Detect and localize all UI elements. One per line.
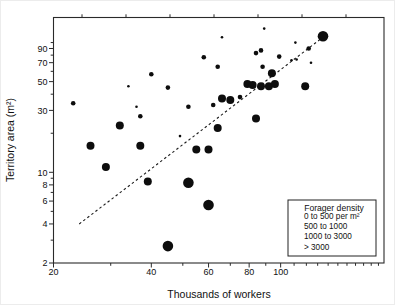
data-point (254, 51, 259, 56)
data-point (277, 54, 282, 59)
data-point (136, 142, 144, 150)
data-point (214, 124, 222, 132)
data-point (215, 65, 220, 70)
y-tick-label: 4 (42, 219, 47, 229)
data-point (71, 101, 76, 106)
data-point (218, 95, 226, 103)
data-point (271, 80, 279, 88)
legend-item-label: 500 to 1000 (304, 222, 348, 231)
legend-item-label: > 3000 (304, 243, 330, 252)
y-tick-label: 30 (37, 106, 47, 116)
x-tick-label: 100 (273, 267, 288, 277)
legend-item-label: 1000 to 3000 (304, 232, 352, 241)
data-point (252, 115, 260, 123)
y-axis-title: Territory area (m²) (4, 98, 16, 182)
data-point (186, 105, 191, 110)
chart-canvas: 2040608010024681030507090 Thousands of w… (1, 1, 395, 305)
data-point (310, 61, 313, 64)
y-tick-label: 50 (37, 77, 47, 87)
data-point (138, 114, 143, 119)
data-point (257, 82, 265, 90)
legend-title: Forager density (304, 203, 364, 213)
data-point (301, 82, 309, 90)
y-tick-label: 8 (42, 180, 47, 190)
data-point (202, 55, 207, 60)
data-point (127, 85, 130, 88)
y-tick-label: 90 (37, 44, 47, 54)
data-point (260, 65, 265, 70)
scatter-plot-figure: 2040608010024681030507090 Thousands of w… (0, 0, 395, 305)
data-point (211, 103, 216, 108)
data-point (318, 31, 329, 42)
data-point (205, 146, 213, 154)
data-point (149, 72, 154, 77)
data-point (259, 48, 264, 53)
data-point (306, 46, 311, 51)
y-tick-label: 10 (37, 168, 47, 178)
x-axis-title: Thousands of workers (167, 288, 270, 300)
y-tick-label: 6 (42, 196, 47, 206)
trend-line (79, 37, 323, 224)
data-point (135, 106, 138, 109)
y-tick-label: 70 (37, 58, 47, 68)
data-point (238, 95, 243, 100)
data-point (166, 85, 171, 90)
x-tick-label: 80 (244, 267, 254, 277)
data-point (116, 121, 124, 129)
data-point (249, 81, 257, 89)
data-point (183, 178, 194, 189)
data-point (221, 36, 224, 39)
data-point (179, 135, 182, 138)
data-point (163, 241, 174, 252)
legend: Forager density 0 to 500 per m² 500 to 1… (288, 200, 376, 256)
data-point (263, 27, 266, 30)
x-tick-label: 60 (204, 267, 214, 277)
data-point (192, 146, 200, 154)
y-tick-label: 2 (42, 258, 47, 268)
data-point (102, 163, 110, 171)
data-point (295, 58, 298, 61)
data-point (226, 96, 234, 104)
data-point (294, 41, 297, 44)
legend-item-label: 0 to 500 per m² (304, 212, 360, 221)
data-point (144, 178, 152, 186)
x-tick-label: 40 (146, 267, 156, 277)
data-point (290, 59, 293, 62)
data-point (203, 200, 214, 211)
data-point (268, 69, 276, 77)
x-tick-label: 20 (48, 267, 58, 277)
data-point (87, 142, 95, 150)
